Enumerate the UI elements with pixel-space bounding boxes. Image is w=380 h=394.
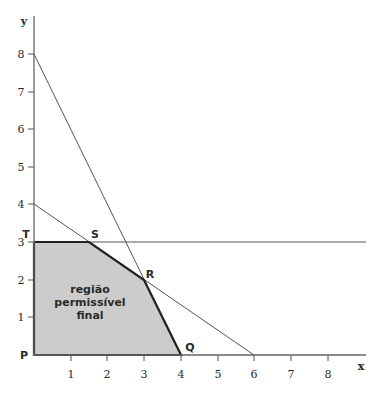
x-tick-label: 3: [141, 368, 148, 381]
x-tick-label: 1: [68, 368, 75, 381]
vertex-label-S: S: [91, 228, 99, 241]
vertex-label-R: R: [146, 268, 155, 281]
x-tick-label: 5: [215, 368, 222, 381]
diagram-canvas: 1 2 3 4 5 6 7 8 1 2 3 4 5 6 7 8 y x P Q …: [0, 0, 380, 394]
y-tick-label: 5: [18, 161, 25, 174]
x-tick-label: 7: [288, 368, 295, 381]
y-tick-label: 2: [18, 274, 25, 287]
region-label-line3: final: [76, 309, 103, 322]
vertex-label-Q: Q: [185, 341, 194, 354]
y-tick-label: 7: [18, 86, 25, 99]
region-label-line2: permissível: [54, 296, 125, 309]
x-tick-label: 2: [104, 368, 111, 381]
y-tick-label: 1: [18, 311, 25, 324]
vertex-label-P: P: [20, 349, 28, 362]
x-tick-label: 6: [251, 368, 258, 381]
y-tick-label: 6: [18, 123, 25, 136]
y-tick-label: 8: [18, 48, 25, 61]
vertex-label-T: T: [22, 228, 30, 241]
x-tick-label: 4: [178, 368, 185, 381]
region-label-line1: região: [70, 283, 110, 296]
y-axis-label: y: [20, 15, 28, 28]
x-axis-label: x: [358, 360, 365, 373]
y-tick-label: 4: [18, 198, 25, 211]
x-tick-label: 8: [325, 368, 332, 381]
